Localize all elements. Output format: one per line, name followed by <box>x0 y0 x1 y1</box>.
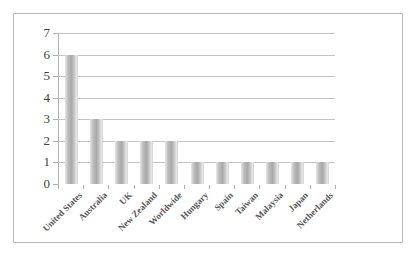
y-axis-tick-label: 3 <box>20 112 50 125</box>
x-axis-tick-mark <box>134 185 135 189</box>
x-axis-category-label-text: Spain <box>212 190 235 213</box>
x-axis-tick-mark <box>83 185 84 189</box>
x-axis-category-label: UK <box>117 190 134 207</box>
bar <box>90 119 103 184</box>
x-axis-tick-mark <box>310 185 311 189</box>
bar <box>140 141 153 184</box>
y-axis-tick-labels: 01234567 <box>14 14 50 244</box>
plot-area <box>58 33 335 184</box>
x-axis-tick-mark <box>234 185 235 189</box>
x-axis-category-label: Hungary <box>178 190 209 221</box>
x-axis-tick-mark <box>184 185 185 189</box>
y-axis-tick-label: 1 <box>20 155 50 168</box>
x-axis-tick-mark <box>58 185 59 189</box>
bar <box>115 141 128 184</box>
bar <box>65 55 78 184</box>
y-axis-tick-label: 5 <box>20 69 50 82</box>
y-axis-tick-label: 0 <box>20 177 50 190</box>
x-axis-tick-mark <box>259 185 260 189</box>
x-axis-category-label-text: UK <box>117 190 134 207</box>
bar <box>191 162 204 184</box>
bar <box>216 162 229 184</box>
x-axis-tick-mark <box>335 185 336 189</box>
y-axis-tick-label: 4 <box>20 91 50 104</box>
bar <box>266 162 279 184</box>
y-axis-tick-label: 6 <box>20 48 50 61</box>
y-axis-tick-label: 2 <box>20 134 50 147</box>
x-axis-category-label: Spain <box>212 190 235 213</box>
x-axis-tick-mark <box>108 185 109 189</box>
bar <box>316 162 329 184</box>
x-axis-tick-mark <box>159 185 160 189</box>
x-axis-category-labels: United StatesAustraliaUKNew ZealandWorld… <box>58 190 398 250</box>
bar <box>291 162 304 184</box>
bar <box>241 162 254 184</box>
x-axis-category-label-text: Hungary <box>178 190 209 221</box>
bar-chart-figure: 01234567 United StatesAustraliaUKNew Zea… <box>13 13 403 243</box>
x-axis-tick-mark <box>209 185 210 189</box>
y-axis-tick-label: 7 <box>20 26 50 39</box>
bar <box>165 141 178 184</box>
x-axis-tick-mark <box>285 185 286 189</box>
